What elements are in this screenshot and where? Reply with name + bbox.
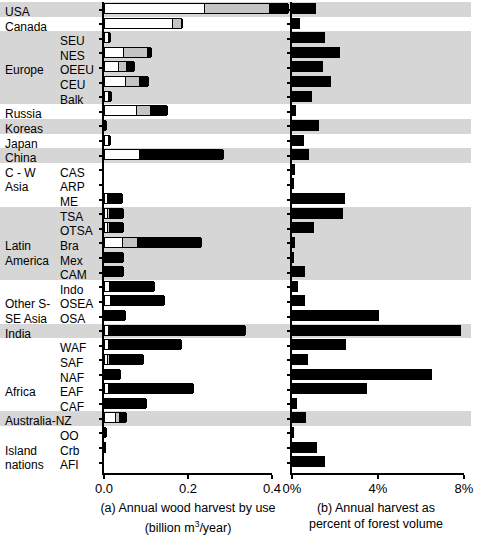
bar-percent <box>292 61 323 72</box>
group-label: Russia <box>5 108 42 120</box>
bar-segment-black <box>105 267 124 276</box>
sub-label: CEU <box>60 79 85 91</box>
sub-label: Mex <box>60 255 83 267</box>
bar-stacked <box>104 149 223 160</box>
group-label: Australia-NZ <box>5 415 72 427</box>
y-tick <box>287 184 291 186</box>
y-tick <box>99 272 103 274</box>
bar-percent <box>292 164 295 175</box>
y-tick <box>287 169 291 171</box>
bar-segment-black <box>147 48 152 57</box>
x-tick <box>271 475 273 479</box>
x-tick-label: 0.2 <box>163 482 213 495</box>
y-tick <box>99 82 103 84</box>
y-tick <box>287 374 291 376</box>
bar-segment-black <box>150 106 169 115</box>
bar-segment-white <box>105 19 172 28</box>
bar-stacked <box>104 193 122 204</box>
sub-label: CAF <box>60 401 84 413</box>
bar-stacked <box>104 266 123 277</box>
y-tick <box>99 374 103 376</box>
y-tick <box>287 67 291 69</box>
bar-percent <box>292 281 298 292</box>
bar-percent <box>292 3 316 14</box>
y-tick <box>99 184 103 186</box>
bar-percent <box>292 456 325 467</box>
bar-segment-white <box>105 106 136 115</box>
bar-percent <box>292 412 306 423</box>
y-tick <box>287 82 291 84</box>
y-tick <box>99 199 103 201</box>
group-label: Africa <box>5 386 36 398</box>
y-tick <box>99 67 103 69</box>
y-tick <box>99 9 103 11</box>
y-tick <box>99 242 103 244</box>
group-label: Europe <box>5 64 44 76</box>
y-tick <box>287 242 291 244</box>
bar-stacked <box>104 105 167 116</box>
y-tick <box>99 389 103 391</box>
sub-label: Indo <box>60 284 83 296</box>
y-tick <box>99 169 103 171</box>
bar-segment-black <box>107 194 123 203</box>
sub-label: OTSA <box>60 225 93 237</box>
bar-segment-white <box>105 62 118 71</box>
x-tick-label: 8% <box>439 482 478 495</box>
y-tick <box>99 23 103 25</box>
y-tick <box>287 96 291 98</box>
sub-label: CAM <box>60 269 87 281</box>
bar-stacked <box>104 412 126 423</box>
y-tick <box>99 96 103 98</box>
y-tick <box>99 228 103 230</box>
x-tick-label: 0.0 <box>79 482 129 495</box>
group-label: Latin <box>5 240 31 252</box>
y-tick <box>287 155 291 157</box>
bar-percent <box>292 266 305 277</box>
bar-segment-black <box>109 209 124 218</box>
bar-stacked <box>104 325 245 336</box>
bar-segment-black <box>108 326 247 335</box>
y-tick <box>287 286 291 288</box>
bar-segment-black <box>105 399 147 408</box>
bar-segment-black <box>181 19 183 28</box>
bar-stacked <box>104 18 182 29</box>
bar-segment-white <box>105 4 204 13</box>
bar-segment-black <box>105 443 106 452</box>
bar-segment-white <box>105 150 139 159</box>
sub-label: OO <box>60 430 79 442</box>
y-tick <box>287 345 291 347</box>
y-tick <box>99 111 103 113</box>
group-label: India <box>5 328 31 340</box>
bar-stacked <box>104 442 106 453</box>
bar-percent <box>292 149 309 160</box>
bar-segment-black <box>137 238 202 247</box>
x-tick-label: 0% <box>267 482 317 495</box>
y-tick <box>287 403 291 405</box>
sub-label: WAF <box>60 342 86 354</box>
bar-stacked <box>104 91 111 102</box>
y-tick <box>99 257 103 259</box>
panel-a-caption-line2: (billion m3/year) <box>88 517 288 536</box>
bar-segment-black <box>110 296 165 305</box>
bar-stacked <box>104 252 123 263</box>
bar-percent <box>292 442 317 453</box>
bar-segment-black <box>109 223 124 232</box>
bar-stacked <box>104 135 110 146</box>
y-tick <box>287 213 291 215</box>
bar-stacked <box>104 32 110 43</box>
bar-segment-gray <box>118 62 126 71</box>
bar-percent <box>292 47 340 58</box>
bar-segment-gray <box>204 4 269 13</box>
y-tick <box>99 140 103 142</box>
bar-segment-black <box>109 282 154 291</box>
bar-segment-white <box>105 48 123 57</box>
bar-stacked <box>104 398 146 409</box>
bar-stacked <box>104 369 120 380</box>
y-tick <box>99 359 103 361</box>
x-tick <box>187 475 189 479</box>
sub-label: SAF <box>60 357 83 369</box>
sub-label: Bra <box>60 240 79 252</box>
bar-percent <box>292 120 319 131</box>
group-label: C - W <box>5 167 36 179</box>
